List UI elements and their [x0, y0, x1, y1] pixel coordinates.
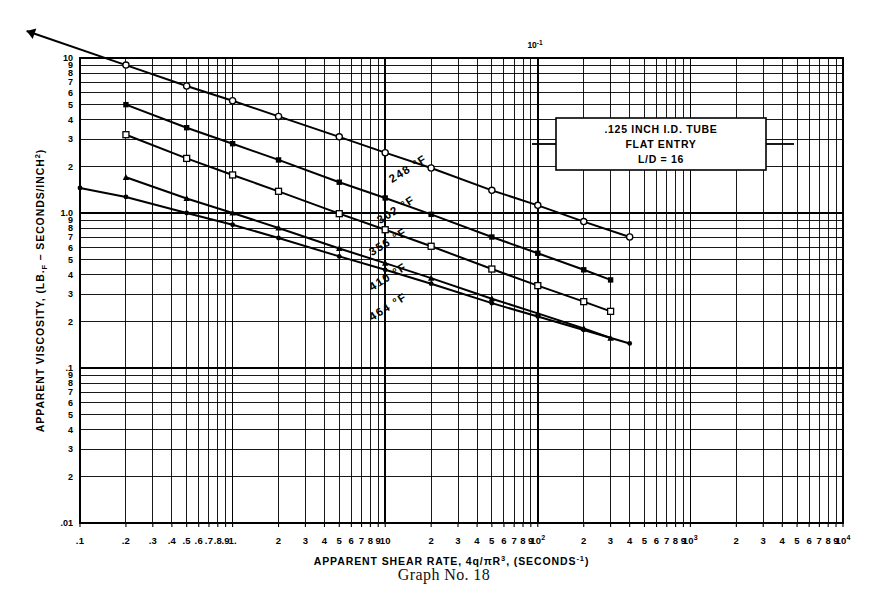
curve-labels: 248 °F302 °F356 °F410 °F464 °F: [367, 152, 429, 323]
svg-text:4: 4: [780, 535, 786, 546]
svg-text:6: 6: [68, 398, 73, 408]
svg-text:4: 4: [68, 115, 73, 125]
svg-text:5: 5: [68, 410, 73, 420]
svg-text:2: 2: [276, 535, 281, 546]
svg-text:7: 7: [817, 535, 822, 546]
y-tick-labels: 10987654321.098765432.198765432.01: [60, 53, 73, 528]
svg-text:6: 6: [68, 243, 73, 253]
svg-text:6: 6: [68, 88, 73, 98]
svg-text:4: 4: [474, 535, 480, 546]
svg-text:10-1: 10-1: [527, 39, 543, 51]
svg-text:.1: .1: [76, 535, 85, 546]
svg-text:5: 5: [489, 535, 495, 546]
svg-text:2: 2: [68, 472, 73, 482]
svg-text:.01: .01: [60, 518, 73, 528]
svg-text:7: 7: [359, 535, 364, 546]
svg-text:.7: .7: [205, 535, 213, 546]
svg-text:3: 3: [68, 444, 73, 454]
svg-text:4: 4: [68, 270, 73, 280]
svg-text:2: 2: [581, 535, 586, 546]
svg-text:.4: .4: [168, 535, 177, 546]
svg-text:8: 8: [673, 535, 678, 546]
svg-text:2: 2: [428, 535, 433, 546]
svg-text:2: 2: [734, 535, 739, 546]
svg-text:APPARENT VISCOSITY, (LB.F – SE: APPARENT VISCOSITY, (LB.F – SECONDS/INCH…: [33, 149, 49, 432]
svg-text:5: 5: [642, 535, 648, 546]
svg-text:7: 7: [68, 77, 73, 87]
svg-text:104: 104: [835, 534, 850, 546]
svg-text:464 °F: 464 °F: [367, 290, 409, 323]
figure-page: .1.2.3.4.5.6.7.8.91.23456789102345678910…: [0, 0, 888, 604]
figure-caption: Graph No. 18: [0, 566, 888, 584]
svg-text:5: 5: [794, 535, 800, 546]
svg-text:.6: .6: [195, 535, 203, 546]
svg-text:.2: .2: [122, 535, 130, 546]
svg-text:2: 2: [68, 317, 73, 327]
data-series: [27, 28, 630, 343]
svg-text:10: 10: [380, 535, 391, 546]
svg-text:7: 7: [664, 535, 669, 546]
svg-text:8: 8: [825, 535, 830, 546]
svg-text:103: 103: [683, 534, 698, 546]
axis-titles: APPARENT SHEAR RATE, 4q/πR3, (SECONDS-1)…: [33, 149, 589, 567]
svg-text:5: 5: [68, 255, 73, 265]
svg-text:1.: 1.: [228, 535, 236, 546]
svg-text:.125 INCH I.D. TUBE: .125 INCH I.D. TUBE: [604, 123, 717, 135]
svg-text:8: 8: [520, 535, 525, 546]
svg-text:248 °F: 248 °F: [387, 152, 429, 185]
svg-text:5: 5: [337, 535, 343, 546]
svg-text:.5: .5: [182, 535, 191, 546]
svg-text:102: 102: [530, 534, 545, 546]
svg-text:3: 3: [68, 289, 73, 299]
svg-text:3: 3: [760, 535, 765, 546]
chart-svg: .1.2.3.4.5.6.7.8.91.23456789102345678910…: [0, 0, 888, 604]
x-tick-labels: .1.2.3.4.5.6.7.8.91.23456789102345678910…: [76, 534, 851, 546]
svg-text:8: 8: [368, 535, 373, 546]
svg-text:6: 6: [654, 535, 659, 546]
svg-text:3: 3: [68, 134, 73, 144]
svg-text:7: 7: [68, 232, 73, 242]
svg-text:4: 4: [68, 425, 73, 435]
svg-text:7: 7: [68, 387, 73, 397]
svg-text:4: 4: [322, 535, 328, 546]
svg-text:6: 6: [501, 535, 506, 546]
svg-text:FLAT ENTRY: FLAT ENTRY: [625, 138, 696, 150]
svg-text:6: 6: [349, 535, 354, 546]
svg-text:3: 3: [455, 535, 460, 546]
loglog-chart: .1.2.3.4.5.6.7.8.91.23456789102345678910…: [0, 0, 888, 604]
svg-text:4: 4: [627, 535, 633, 546]
svg-text:3: 3: [608, 535, 613, 546]
svg-text:302 °F: 302 °F: [375, 193, 417, 226]
svg-text:2: 2: [68, 162, 73, 172]
svg-text:6: 6: [806, 535, 811, 546]
svg-text:L/D = 16: L/D = 16: [638, 153, 684, 165]
svg-text:3: 3: [303, 535, 308, 546]
svg-text:5: 5: [68, 100, 73, 110]
svg-text:.3: .3: [149, 535, 157, 546]
svg-text:7: 7: [511, 535, 516, 546]
